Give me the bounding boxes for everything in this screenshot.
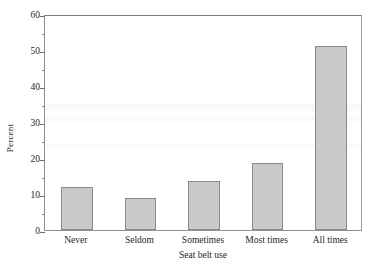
y-axis-minor-tick	[42, 178, 46, 179]
y-axis-minor-tick	[42, 142, 46, 143]
plot-area	[44, 15, 362, 231]
y-axis-tick-label: 40	[18, 82, 40, 92]
x-axis-tick-label: Seldom	[108, 234, 172, 246]
x-axis-tick-label: Never	[44, 234, 108, 246]
bar	[61, 187, 93, 230]
x-axis-tick-label: Sometimes	[171, 234, 235, 246]
y-axis-title-container: Percent	[2, 0, 18, 276]
bar	[315, 46, 347, 230]
bar	[125, 198, 157, 230]
y-axis-tick-label: 50	[18, 46, 40, 56]
x-axis-tick-label: Most times	[235, 234, 299, 246]
y-axis-major-tick	[40, 160, 45, 161]
bar	[188, 181, 220, 230]
y-axis-major-tick	[40, 232, 45, 233]
scan-artifact-band	[45, 104, 361, 111]
y-axis-minor-tick	[42, 34, 46, 35]
y-axis-tick-labels: 0102030405060	[18, 0, 40, 276]
x-axis-title: Seat belt use	[44, 250, 362, 260]
bar-chart-figure: Percent 0102030405060 NeverSeldomSometim…	[0, 0, 377, 276]
y-axis-tick-label: 10	[18, 190, 40, 200]
scan-artifact-band	[45, 116, 361, 121]
y-axis-tick-label: 60	[18, 10, 40, 20]
y-axis-major-tick	[40, 16, 45, 17]
y-axis-tick-label: 20	[18, 154, 40, 164]
x-axis-tick-label: All times	[298, 234, 362, 246]
y-axis-tick-label: 0	[18, 226, 40, 236]
y-axis-major-tick	[40, 124, 45, 125]
bar	[252, 163, 284, 230]
y-axis-minor-tick	[42, 70, 46, 71]
y-axis-major-tick	[40, 52, 45, 53]
y-axis-tick-label: 30	[18, 118, 40, 128]
y-axis-minor-tick	[42, 214, 46, 215]
scan-artifact-band	[45, 144, 361, 148]
x-axis-tick-labels: NeverSeldomSometimesMost timesAll times	[44, 234, 362, 248]
y-axis-title: Percent	[2, 0, 18, 276]
y-axis-minor-tick	[42, 106, 46, 107]
y-axis-major-tick	[40, 196, 45, 197]
y-axis-major-tick	[40, 88, 45, 89]
